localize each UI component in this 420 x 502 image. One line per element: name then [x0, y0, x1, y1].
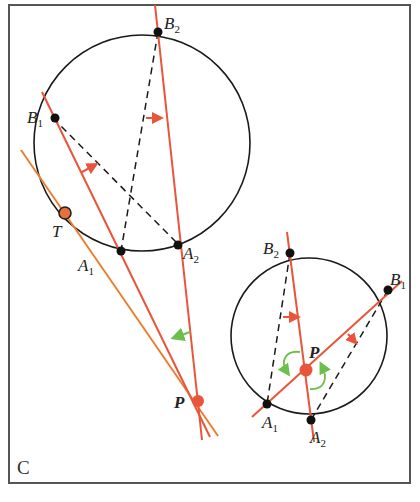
- label-t: T: [52, 222, 63, 241]
- label-a2: A2: [182, 244, 199, 265]
- right-diagram: B2 B1 A1 A2 P: [231, 232, 406, 449]
- green-arrow-icon: [176, 332, 190, 337]
- label-p: P: [308, 343, 320, 362]
- chord-b2-a2: [287, 232, 314, 442]
- point-a2: [174, 241, 183, 250]
- label-b1: B1: [27, 108, 43, 129]
- green-rotation-arrow-icon: [284, 352, 300, 372]
- secant-b1-a1: [42, 92, 210, 437]
- power-of-point-diagram: B2 B1 A1 A2 T P B2 B1 A1 A2 P C: [0, 0, 420, 502]
- point-a1: [117, 247, 126, 256]
- red-arrow-icon: [82, 165, 95, 172]
- dashed-chord-b2-a1: [121, 32, 158, 251]
- label-b1: B1: [390, 270, 406, 291]
- point-t: [59, 207, 71, 219]
- label-p: P: [173, 393, 185, 412]
- label-a1: A1: [77, 256, 94, 277]
- point-p: [192, 395, 204, 407]
- point-p: [300, 364, 313, 377]
- label-a1: A1: [261, 413, 278, 434]
- red-arrow-icon: [348, 334, 355, 342]
- point-b2: [154, 28, 163, 37]
- right-circle: [231, 258, 387, 414]
- point-b2: [286, 249, 295, 258]
- chord-a1-b1: [252, 281, 402, 417]
- dashed-chord-b1-a2: [311, 290, 388, 420]
- point-a2: [307, 416, 316, 425]
- panel-label: C: [17, 457, 30, 478]
- label-b2: B2: [164, 14, 180, 35]
- left-diagram: B2 B1 A1 A2 T P: [21, 5, 250, 440]
- dashed-chord-b2-a1: [267, 253, 290, 404]
- point-a1: [263, 400, 272, 409]
- label-a2: A2: [309, 428, 326, 449]
- label-b2: B2: [263, 239, 279, 260]
- secant-b2-a2: [155, 5, 202, 440]
- point-b1: [51, 114, 60, 123]
